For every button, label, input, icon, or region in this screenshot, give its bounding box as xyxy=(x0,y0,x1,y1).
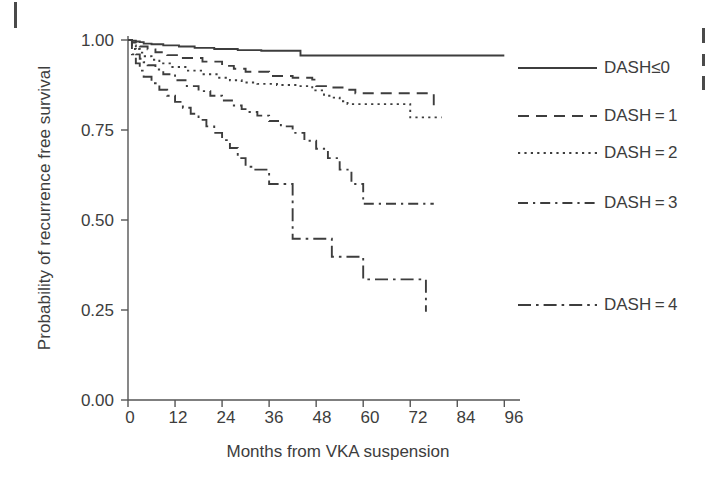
series-line-4 xyxy=(128,40,426,312)
x-axis-ticks xyxy=(128,400,504,407)
plot-area xyxy=(0,0,711,483)
series-line-3 xyxy=(128,40,434,204)
legend-line-samples xyxy=(518,68,597,305)
y-axis-ticks xyxy=(121,40,128,400)
series-line-0 xyxy=(128,40,504,55)
series-layer xyxy=(128,40,504,312)
kaplan-meier-figure: Probability of recurrence free survival … xyxy=(0,0,711,483)
page-edge-clipped-text xyxy=(702,24,711,92)
